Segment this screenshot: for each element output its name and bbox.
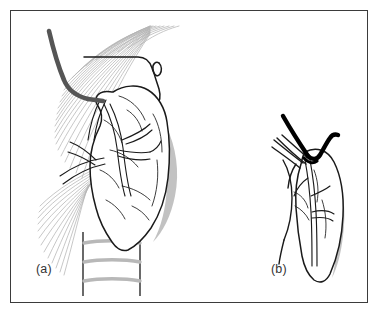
figure-root: (a) (b) [0, 0, 378, 313]
panel-label-a: (a) [36, 262, 52, 276]
panel-label-b: (b) [271, 262, 287, 276]
retractor-instrument-a [49, 31, 103, 101]
panel-a-artwork [38, 26, 179, 296]
figure-artwork [0, 0, 378, 313]
panel-b-artwork [272, 116, 344, 282]
